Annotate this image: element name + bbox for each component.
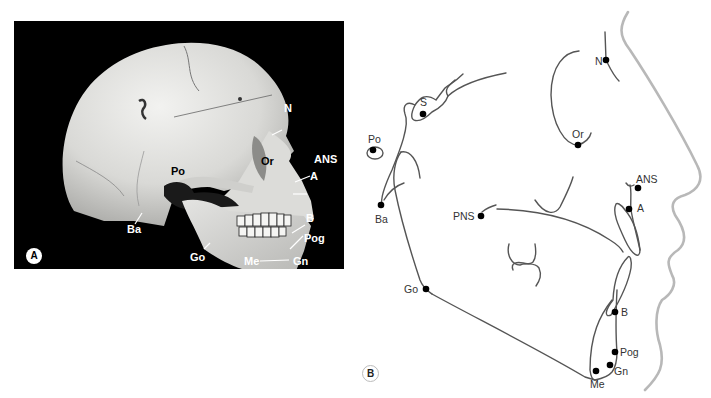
landmark-label-s: S: [420, 97, 427, 108]
point-a: [626, 206, 633, 213]
landmark-label-a: A: [637, 203, 644, 214]
panel-b-badge: B: [362, 365, 379, 382]
point-me: [593, 368, 600, 375]
landmark-label-b: B: [621, 307, 628, 318]
point-or: [575, 142, 582, 149]
landmark-label-pns: PNS: [453, 211, 475, 222]
landmark-label-pog: Pog: [620, 347, 639, 358]
point-ans: [635, 185, 642, 192]
point-gn: [607, 362, 614, 369]
point-ba: [378, 202, 385, 209]
tracing-drawing: [0, 0, 711, 398]
point-pog: [612, 349, 619, 356]
landmark-label-n: N: [595, 56, 603, 67]
landmark-label-ans: ANS: [636, 174, 658, 185]
landmark-label-me: Me: [590, 379, 605, 390]
landmark-label-go: Go: [404, 284, 418, 295]
point-po: [370, 147, 377, 154]
landmark-label-gn: Gn: [614, 366, 628, 377]
point-go: [423, 286, 430, 293]
point-n: [603, 57, 610, 64]
landmark-label-or: Or: [572, 129, 584, 140]
landmark-label-ba: Ba: [375, 214, 388, 225]
cephalometric-tracing-panel: B: [0, 0, 711, 398]
point-s: [420, 111, 427, 118]
point-pns: [478, 213, 485, 220]
landmark-label-po: Po: [368, 134, 381, 145]
point-b: [612, 309, 619, 316]
